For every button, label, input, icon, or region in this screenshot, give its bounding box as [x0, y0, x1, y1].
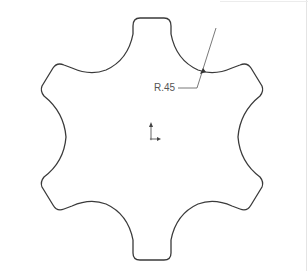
radius-dimension-leader[interactable] [178, 28, 216, 88]
sketch-canvas[interactable]: R.45 [0, 0, 308, 271]
coordinate-axes-icon [149, 122, 161, 141]
radius-dimension-label[interactable]: R.45 [154, 82, 175, 94]
sketch-geometry [0, 0, 308, 271]
